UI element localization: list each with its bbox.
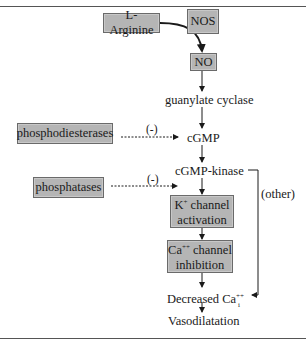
pde-inhibition-label: (-) xyxy=(146,122,158,136)
ca-channel-box: Ca++ channel inhibition xyxy=(167,240,233,273)
ca-channel-line2: inhibition xyxy=(176,258,225,273)
l-arginine-box: L-Arginine xyxy=(103,13,160,33)
k-channel-box: K+ channel activation xyxy=(170,195,234,228)
nos-label: NOS xyxy=(190,14,215,29)
decreased-ca-label: Decreased Ca++i xyxy=(167,289,240,312)
phosphodiesterases-box: phosphodiesterases xyxy=(17,123,113,144)
phosphatases-label: phosphatases xyxy=(36,180,102,195)
other-label: (other) xyxy=(261,187,295,201)
k-channel-line1: K+ channel xyxy=(175,195,230,213)
no-box: NO xyxy=(190,53,217,71)
cgmp-kinase-label: cGMP-kinase xyxy=(175,164,244,178)
k-channel-line2: activation xyxy=(177,213,226,228)
nos-box: NOS xyxy=(187,9,219,34)
phosphatases-box: phosphatases xyxy=(33,177,104,198)
phosphatases-inhibition-label: (-) xyxy=(147,172,159,186)
phosphodiesterases-label: phosphodiesterases xyxy=(17,126,114,141)
guanylate-cyclase-label: guanylate cyclase xyxy=(165,93,254,107)
no-label: NO xyxy=(194,55,212,70)
ca-channel-line1: Ca++ channel xyxy=(168,240,232,258)
cgmp-label: cGMP xyxy=(187,131,220,145)
l-arginine-label: L-Arginine xyxy=(104,8,159,38)
vasodilatation-label: Vasodilatation xyxy=(168,314,240,328)
